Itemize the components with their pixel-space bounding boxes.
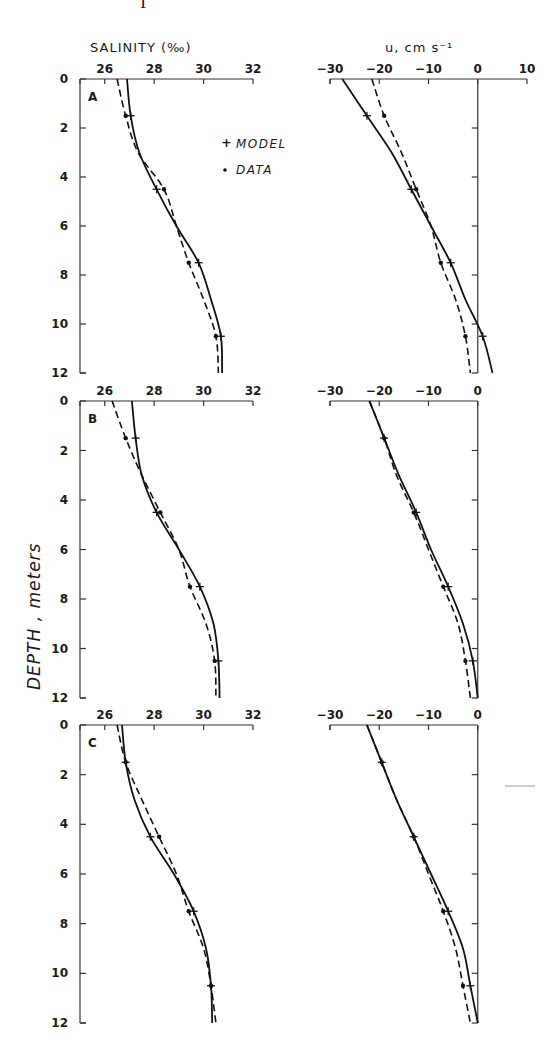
x-tick-label: −10 xyxy=(415,708,442,722)
x-tick-label: −30 xyxy=(317,708,344,722)
data-curve xyxy=(367,725,471,1023)
data-marker-icon xyxy=(212,659,216,663)
salinity-axis-title: SALINITY (‰) xyxy=(90,40,192,55)
x-tick-label: 32 xyxy=(245,62,262,76)
data-marker-icon xyxy=(158,510,162,514)
plot-layer: 26283032024681012A−30−20−100102628303202… xyxy=(51,62,535,1030)
y-tick-label: 12 xyxy=(51,691,68,705)
x-tick-label: 32 xyxy=(245,384,262,398)
data-marker-icon xyxy=(441,584,445,588)
panel-A-salinity: 26283032024681012A xyxy=(51,62,261,380)
x-tick-label: −10 xyxy=(415,384,442,398)
y-tick-label: 12 xyxy=(51,366,68,380)
x-tick-label: −10 xyxy=(415,62,442,76)
data-marker-icon xyxy=(439,261,443,265)
panel-letter: B xyxy=(88,412,97,426)
data-marker-icon xyxy=(124,760,128,764)
y-tick-label: 4 xyxy=(60,493,68,507)
x-tick-label: 30 xyxy=(195,62,212,76)
legend-data-label: DATA xyxy=(236,163,273,177)
y-tick-label: 2 xyxy=(60,444,68,458)
legend-data-marker-icon xyxy=(223,168,227,172)
x-tick-label: 26 xyxy=(96,62,113,76)
data-marker-icon xyxy=(441,909,445,913)
y-tick-label: 8 xyxy=(60,268,68,282)
y-tick-label: 6 xyxy=(60,867,68,881)
model-curve xyxy=(127,79,222,373)
top-cut-fragment: I xyxy=(140,0,146,12)
legend-model-label: MODEL xyxy=(236,137,287,151)
data-marker-icon xyxy=(414,187,418,191)
panel-C-velocity: −30−20−100 xyxy=(317,708,482,1023)
data-marker-icon xyxy=(382,436,386,440)
data-marker-icon xyxy=(412,835,416,839)
y-tick-label: 10 xyxy=(51,317,68,331)
legend: + MODEL DATA xyxy=(221,135,287,177)
y-tick-label: 0 xyxy=(60,72,68,86)
data-marker-icon xyxy=(463,334,467,338)
panel-A-velocity: −30−20−10010 xyxy=(317,62,536,373)
y-tick-label: 10 xyxy=(51,642,68,656)
data-marker-icon xyxy=(380,760,384,764)
x-tick-label: 32 xyxy=(245,708,262,722)
y-tick-label: 2 xyxy=(60,768,68,782)
x-tick-label: −20 xyxy=(366,384,393,398)
data-curve xyxy=(369,401,470,698)
y-tick-label: 12 xyxy=(51,1016,68,1030)
figure-canvas: I SALINITY (‰) u, cm s⁻¹ DEPTH , meters … xyxy=(0,0,557,1047)
model-curve xyxy=(342,79,492,373)
x-tick-label: 26 xyxy=(96,384,113,398)
panel-C-salinity: 26283032024681012C xyxy=(51,708,261,1030)
y-tick-label: 8 xyxy=(60,917,68,931)
y-tick-label: 0 xyxy=(60,718,68,732)
x-tick-label: 28 xyxy=(146,708,163,722)
x-tick-label: −20 xyxy=(366,62,393,76)
data-marker-icon xyxy=(188,584,192,588)
x-tick-label: 30 xyxy=(195,384,212,398)
x-tick-label: −30 xyxy=(317,384,344,398)
y-tick-label: 0 xyxy=(60,394,68,408)
x-tick-label: −30 xyxy=(317,62,344,76)
data-marker-icon xyxy=(214,334,218,338)
y-tick-label: 8 xyxy=(60,592,68,606)
y-tick-label: 6 xyxy=(60,219,68,233)
panel-B-velocity: −30−20−100 xyxy=(317,384,482,698)
x-tick-label: 10 xyxy=(519,62,536,76)
data-marker-icon xyxy=(382,114,386,118)
x-tick-label: 0 xyxy=(474,708,482,722)
data-marker-icon xyxy=(124,114,128,118)
x-tick-label: 30 xyxy=(195,708,212,722)
depth-axis-title: DEPTH , meters xyxy=(24,543,44,690)
x-tick-label: 26 xyxy=(96,708,113,722)
y-tick-label: 6 xyxy=(60,543,68,557)
y-tick-label: 10 xyxy=(51,966,68,980)
panel-B-salinity: 26283032024681012B xyxy=(51,384,261,705)
panel-letter: A xyxy=(88,90,98,104)
data-curve xyxy=(112,401,216,698)
legend-model-marker: + xyxy=(221,135,232,150)
model-curve xyxy=(132,401,220,698)
data-marker-icon xyxy=(463,659,467,663)
x-tick-label: 28 xyxy=(146,62,163,76)
panel-letter: C xyxy=(88,736,97,750)
x-tick-label: 28 xyxy=(146,384,163,398)
y-tick-label: 4 xyxy=(60,170,68,184)
model-curve xyxy=(122,725,212,1023)
data-marker-icon xyxy=(461,984,465,988)
model-curve xyxy=(369,401,477,698)
x-tick-label: 0 xyxy=(474,62,482,76)
data-marker-icon xyxy=(162,187,166,191)
data-curve xyxy=(372,79,471,373)
x-tick-label: −20 xyxy=(366,708,393,722)
data-marker-icon xyxy=(209,984,213,988)
data-curve xyxy=(117,725,216,1023)
data-marker-icon xyxy=(187,909,191,913)
x-tick-label: 0 xyxy=(474,384,482,398)
data-marker-icon xyxy=(412,510,416,514)
data-marker-icon xyxy=(157,835,161,839)
y-tick-label: 2 xyxy=(60,121,68,135)
y-tick-label: 4 xyxy=(60,817,68,831)
data-marker-icon xyxy=(124,436,128,440)
data-marker-icon xyxy=(187,261,191,265)
velocity-axis-title: u, cm s⁻¹ xyxy=(385,40,453,55)
